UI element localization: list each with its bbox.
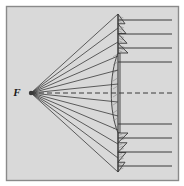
focal-point-marker bbox=[29, 91, 33, 95]
fresnel-lens-figure: F Fresnel lens collimating rays from a p… bbox=[0, 0, 184, 186]
ray-diagram-svg: F bbox=[0, 0, 184, 186]
focal-point-label: F bbox=[12, 86, 21, 98]
